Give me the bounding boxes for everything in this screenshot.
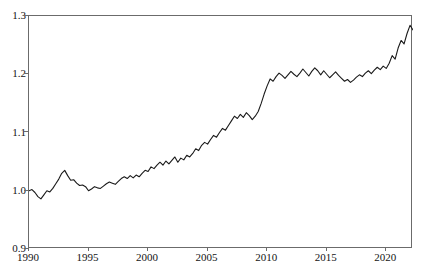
x-tick-mark — [28, 247, 29, 251]
chart-figure: 0.91.01.11.21.3 199019952000200520102015… — [0, 0, 424, 278]
x-tick-label: 1990 — [8, 252, 48, 263]
x-tick-mark — [88, 247, 89, 251]
y-tick-label: 1.3 — [0, 10, 26, 21]
x-tick-label: 2000 — [127, 252, 167, 263]
plot-area — [28, 15, 412, 248]
line-series-svg — [29, 16, 413, 249]
x-tick-label: 1995 — [68, 252, 108, 263]
x-tick-mark — [266, 247, 267, 251]
y-tick-label: 1.2 — [0, 68, 26, 79]
x-tick-mark — [326, 247, 327, 251]
x-tick-label: 2010 — [246, 252, 286, 263]
x-tick-label: 2015 — [306, 252, 346, 263]
x-tick-label: 2020 — [365, 252, 405, 263]
y-tick-label: 1.1 — [0, 127, 26, 138]
x-tick-mark — [385, 247, 386, 251]
x-tick-mark — [207, 247, 208, 251]
x-tick-mark — [147, 247, 148, 251]
x-tick-label: 2005 — [187, 252, 227, 263]
y-tick-label: 1.0 — [0, 185, 26, 196]
line-series-path — [29, 25, 413, 199]
